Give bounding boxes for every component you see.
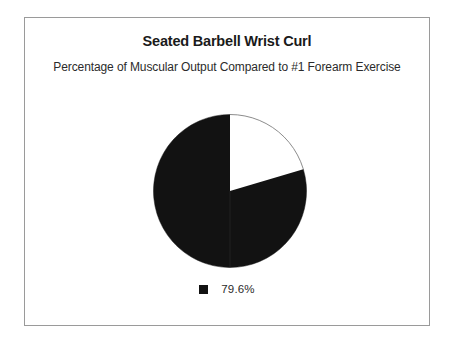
pie-chart-svg <box>153 114 307 268</box>
legend-item-label: 79.6% <box>221 283 255 295</box>
pie-chart <box>153 114 307 268</box>
legend-color-swatch <box>199 285 208 294</box>
legend-item[interactable]: 79.6% <box>199 283 255 295</box>
chart-title: Seated Barbell Wrist Curl <box>25 33 429 49</box>
chart-frame: Seated Barbell Wrist Curl Percentage of … <box>24 17 430 326</box>
chart-legend: 79.6% <box>25 283 429 295</box>
chart-subtitle: Percentage of Muscular Output Compared t… <box>25 60 429 74</box>
